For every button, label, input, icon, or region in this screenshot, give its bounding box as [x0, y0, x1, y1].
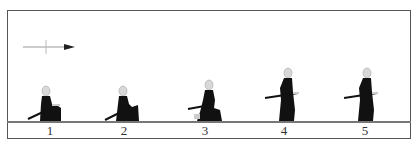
step-label-4: 4	[274, 124, 294, 138]
step-label-3: 3	[195, 124, 215, 138]
step-label-1: 1	[40, 124, 60, 138]
step-label-5: 5	[355, 124, 375, 138]
step-label-2: 2	[114, 124, 134, 138]
